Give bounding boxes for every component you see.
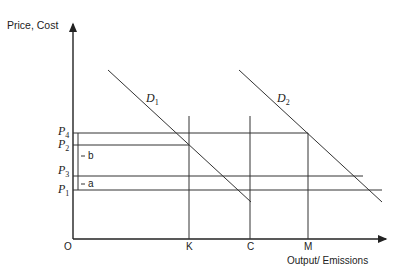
origin-label: O [64,241,72,252]
diagram-canvas: Price, Cost Output/ Emissions O P4 P2 P3… [0,0,404,280]
p2-label: P2 [58,137,69,153]
d2-curve [239,70,382,202]
p1-label: P1 [58,182,69,198]
x-axis-label: Output/ Emissions [287,255,368,266]
m-label: M [304,241,312,252]
y-axis-label: Price, Cost [7,19,58,31]
b-label: b [88,150,94,161]
d1-label: D1 [146,91,159,107]
d2-label: D2 [277,91,290,107]
c-label: C [247,241,254,252]
p3-label: P3 [58,163,69,179]
a-label: a [88,178,94,189]
d1-curve [108,70,251,202]
k-label: K [186,241,193,252]
